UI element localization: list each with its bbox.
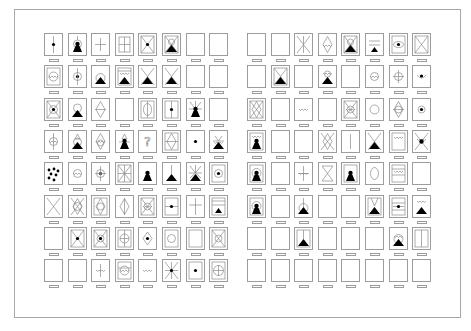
icon-cell-x-figure-plain[interactable] — [162, 65, 181, 88]
icon-cell-frame-figure-plain[interactable] — [341, 162, 360, 185]
icon-cell-wave-figure-frame[interactable] — [318, 65, 337, 88]
icon-cell-blank[interactable] — [271, 227, 290, 250]
icon-cell-x-figure[interactable] — [365, 130, 384, 153]
icon-cell-figure-lines[interactable] — [115, 130, 134, 153]
icon-cell-blank[interactable] — [209, 65, 228, 88]
icon-cell-x-diamond[interactable] — [318, 130, 337, 153]
icon-cell-hourglass[interactable] — [318, 162, 337, 185]
icon-cell-diamond-cross[interactable] — [389, 98, 408, 121]
icon-cell-crosshair-tall[interactable] — [186, 195, 205, 218]
icon-cell-wave-vline[interactable] — [91, 259, 110, 282]
icon-cell-blank[interactable] — [294, 130, 313, 153]
icon-cell-blank[interactable] — [271, 98, 290, 121]
icon-cell-frame-wave[interactable] — [389, 130, 408, 153]
icon-cell-blank[interactable] — [209, 33, 228, 56]
icon-cell-frame-figure-wave[interactable] — [247, 130, 266, 153]
icon-cell-diamond-vline[interactable] — [91, 98, 110, 121]
icon-cell-rays-figure[interactable] — [186, 98, 205, 121]
icon-cell-blank[interactable] — [271, 259, 290, 282]
icon-cell-blank[interactable] — [44, 259, 63, 282]
icon-cell-x-frame-star[interactable] — [115, 162, 134, 185]
icon-cell-blank[interactable] — [365, 227, 384, 250]
icon-cell-x-plain[interactable] — [44, 195, 63, 218]
icon-cell-x-frame-ornate[interactable] — [341, 98, 360, 121]
icon-cell-x-frame-figure[interactable] — [341, 33, 360, 56]
icon-cell-blank[interactable] — [186, 65, 205, 88]
icon-cell-blank[interactable] — [318, 98, 337, 121]
icon-cell-scattered-dots[interactable] — [44, 162, 63, 185]
icon-cell-vline[interactable] — [341, 130, 360, 153]
icon-cell-circle-ornate[interactable] — [68, 195, 87, 218]
icon-cell-frame-mountain-vline[interactable] — [294, 227, 313, 250]
icon-cell-figure-halo[interactable] — [68, 33, 87, 56]
icon-cell-circle[interactable] — [365, 98, 384, 121]
icon-cell-blank[interactable] — [318, 227, 337, 250]
icon-cell-frame-wave-lines[interactable] — [389, 162, 408, 185]
icon-cell-mountain-arc-wave[interactable] — [389, 227, 408, 250]
icon-cell-x-frame-ornate[interactable] — [138, 195, 157, 218]
icon-cell-ellipse-frame[interactable] — [138, 98, 157, 121]
icon-cell-frame-vlines[interactable] — [412, 227, 431, 250]
icon-cell-diamond-frame-x[interactable] — [247, 98, 266, 121]
icon-cell-diamond-wave-tall[interactable] — [318, 33, 337, 56]
icon-cell-blank[interactable] — [44, 227, 63, 250]
icon-cell-diamond-vline-tall[interactable] — [115, 195, 134, 218]
icon-cell-ellipse[interactable] — [365, 162, 384, 185]
icon-cell-figure-rays-wave[interactable] — [209, 130, 228, 153]
icon-cell-x-frame-plain[interactable] — [412, 33, 431, 56]
icon-cell-diamond-frame[interactable] — [162, 130, 181, 153]
icon-cell-crosshair-circle[interactable] — [389, 65, 408, 88]
icon-cell-circle-grid-frame[interactable] — [209, 259, 228, 282]
icon-cell-x-frame-dot-circle[interactable] — [91, 227, 110, 250]
icon-cell-blank[interactable] — [247, 227, 266, 250]
icon-cell-mountain-arc-vline[interactable] — [294, 195, 313, 218]
icon-cell-blank[interactable] — [365, 259, 384, 282]
icon-cell-blank[interactable] — [341, 195, 360, 218]
icon-cell-x-frame-circle-dot[interactable] — [44, 98, 63, 121]
icon-cell-dot-hline-frame[interactable] — [162, 195, 181, 218]
icon-cell-circle-cross-frame[interactable] — [115, 227, 134, 250]
icon-cell-frame-mountain-rays[interactable] — [365, 195, 384, 218]
icon-cell-wave[interactable] — [138, 259, 157, 282]
icon-cell-circle-dot-cross[interactable] — [91, 162, 110, 185]
icon-cell-figure-circle[interactable] — [68, 98, 87, 121]
icon-cell-blank[interactable] — [318, 195, 337, 218]
icon-cell-dot[interactable] — [186, 130, 205, 153]
icon-cell-diamond-dot[interactable] — [138, 227, 157, 250]
icon-cell-grid-window[interactable] — [115, 33, 134, 56]
icon-cell-figure-plain[interactable] — [138, 162, 157, 185]
icon-cell-circle-dot-vline[interactable] — [68, 65, 87, 88]
icon-cell-blank[interactable] — [318, 259, 337, 282]
icon-cell-x-figure[interactable] — [138, 65, 157, 88]
icon-cell-blank[interactable] — [68, 259, 87, 282]
icon-cell-frame-circle[interactable] — [162, 227, 181, 250]
icon-cell-frame-dot[interactable] — [186, 259, 205, 282]
icon-cell-blank[interactable] — [341, 65, 360, 88]
icon-cell-blank[interactable] — [209, 98, 228, 121]
icon-cell-dot-vline-frame[interactable] — [162, 98, 181, 121]
icon-cell-dot-vline[interactable] — [44, 33, 63, 56]
icon-cell-rays-figure-star[interactable] — [186, 162, 205, 185]
icon-cell-blank[interactable] — [247, 259, 266, 282]
icon-cell-hourglass-figure[interactable] — [271, 65, 290, 88]
icon-cell-x-frame-dot[interactable] — [138, 33, 157, 56]
icon-cell-wave-cross[interactable] — [294, 162, 313, 185]
icon-cell-frame-circle-dot[interactable] — [209, 162, 228, 185]
icon-cell-frame-eye[interactable] — [389, 33, 408, 56]
icon-cell-hline-mountain[interactable] — [365, 33, 384, 56]
icon-cell-blank[interactable] — [271, 130, 290, 153]
icon-cell-wave-mountain[interactable] — [412, 195, 431, 218]
icon-cell-blank[interactable] — [247, 65, 266, 88]
icon-cell-mountain-vline[interactable] — [162, 162, 181, 185]
icon-cell-frame-figure-halo[interactable] — [247, 195, 266, 218]
icon-cell-frame-figure-lines[interactable] — [209, 195, 228, 218]
icon-cell-frame-blank[interactable] — [186, 227, 205, 250]
icon-cell-blank[interactable] — [294, 65, 313, 88]
icon-cell-frame-wave-circle[interactable] — [115, 259, 134, 282]
icon-cell-blank[interactable] — [412, 259, 431, 282]
icon-cell-blank[interactable] — [341, 227, 360, 250]
icon-cell-rays-dot-wave[interactable] — [412, 130, 431, 153]
icon-cell-star-dot[interactable] — [162, 259, 181, 282]
icon-cell-circle-wave-vline[interactable] — [44, 130, 63, 153]
icon-cell-diamond-frame-circle[interactable] — [91, 195, 110, 218]
